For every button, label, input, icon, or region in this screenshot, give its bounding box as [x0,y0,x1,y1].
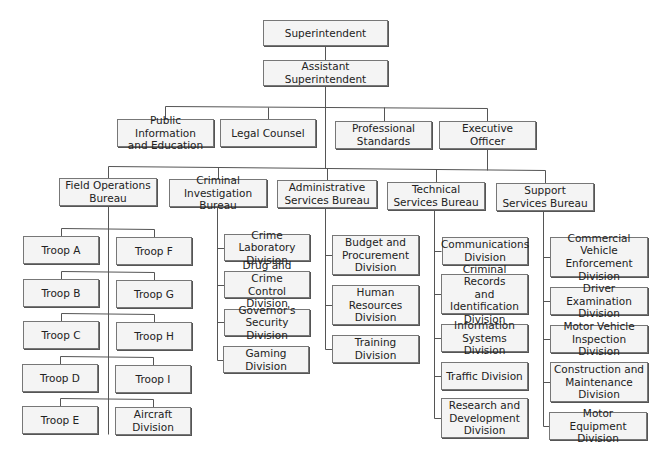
node-troop-h: Troop H [116,322,192,350]
node-communications: Communications Division [442,237,528,265]
node-driver-examination: Driver Examination Division [550,287,648,315]
connector-line [166,107,488,109]
connector-line [61,399,154,400]
node-crime-laboratory: Crime Laboratory Division [224,234,310,261]
node-troop-c: Troop C [23,321,99,349]
node-legal-counsel: Legal Counsel [220,119,316,147]
node-criminal-investigation: Criminal Investigation Bureau [169,179,267,207]
node-traffic-division: Traffic Division [441,362,528,390]
node-executive-officer: Executive Officer [439,121,536,149]
node-support-services: Support Services Bureau [496,183,594,211]
node-troop-f: Troop F [116,237,192,265]
node-troop-b: Troop B [23,279,99,307]
node-aircraft-division: Aircraft Division [115,407,191,435]
node-budget-procurement: Budget and Procurement Division [332,235,419,275]
node-troop-i: Troop I [115,365,191,393]
node-training-division: Training Division [332,335,419,363]
connector-line [62,314,155,315]
node-technical-services: Technical Services Bureau [387,182,485,210]
node-gaming-division: Gaming Division [223,346,309,373]
node-troop-e: Troop E [22,406,98,434]
node-field-operations: Field Operations Bureau [59,178,157,206]
node-professional-standards: Professional Standards [335,121,432,149]
node-criminal-records: Criminal Records and Identification Divi… [441,274,528,314]
node-superintendent: Superintendent [263,20,388,46]
node-troop-a: Troop A [23,236,99,264]
node-motor-vehicle-inspection: Motor Vehicle Inspection Division [550,325,648,353]
connector-line [61,357,154,358]
node-motor-equipment: Motor Equipment Division [549,412,647,440]
node-troop-g: Troop G [116,280,192,308]
node-commercial-vehicle: Commercial Vehicle Enforcement Division [550,237,648,277]
node-research-development: Research and Development Division [441,398,528,438]
node-assistant-superintendent: Assistant Superintendent [263,60,388,86]
org-chart: SuperintendentAssistant SuperintendentPu… [0,0,671,460]
node-public-information: Public Information and Education [117,119,214,147]
connector-line [62,272,155,273]
node-administrative-services: Administrative Services Bureau [277,180,377,208]
node-human-resources: Human Resources Division [332,285,419,325]
node-troop-d: Troop D [22,364,98,392]
node-information-systems: Information Systems Division [441,324,528,352]
node-governors-security: Governor's Security Division [224,309,310,336]
node-drug-crime-control: Drug and Crime Control Division [224,271,310,298]
node-construction-maintenance: Construction and Maintenance Division [550,362,648,402]
connector-line [62,229,155,230]
